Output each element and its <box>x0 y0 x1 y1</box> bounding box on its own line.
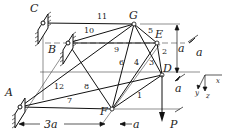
dim-label-3a: 3a <box>44 118 58 131</box>
label-B: B <box>47 43 56 56</box>
member-label-11: 11 <box>97 12 107 21</box>
support-B <box>60 32 76 66</box>
axis-label-y: y <box>194 89 200 97</box>
member-label-1: 1 <box>137 91 142 100</box>
dim-label-a-lower: a <box>175 82 182 95</box>
member-label-8: 8 <box>84 82 89 91</box>
truss-diagram: C B A G E D F 11 10 9 5 2 6 4 3 12 8 7 1… <box>0 0 225 131</box>
axis-label-x: x <box>216 77 220 85</box>
member-11 <box>43 23 134 24</box>
member-label-9: 9 <box>114 45 119 54</box>
member-8 <box>68 43 112 109</box>
load-label-P: P <box>169 118 178 131</box>
member-label-3: 3 <box>149 58 154 67</box>
label-D: D <box>162 62 172 75</box>
member-7 <box>20 107 112 109</box>
member-label-7: 7 <box>67 96 72 105</box>
axis-label-z: z <box>205 92 210 100</box>
label-C: C <box>30 2 39 15</box>
label-G: G <box>129 9 138 22</box>
member-label-10: 10 <box>84 26 94 35</box>
member-label-6: 6 <box>119 58 124 67</box>
load-arrow <box>159 75 165 122</box>
label-F: F <box>99 105 108 118</box>
label-E: E <box>154 28 163 41</box>
label-A: A <box>4 86 13 99</box>
dim-label-a-top: a <box>196 46 203 59</box>
member-label-2: 2 <box>162 47 167 56</box>
member-10 <box>68 24 134 43</box>
dim-label-a-bottom: a <box>133 118 140 131</box>
member-label-4: 4 <box>134 58 139 67</box>
dim-label-a-vertical: a <box>178 42 185 55</box>
member-5 <box>134 24 157 43</box>
dim-horizontal <box>19 122 132 126</box>
member-label-5: 5 <box>148 26 153 35</box>
member-label-12: 12 <box>54 82 64 91</box>
